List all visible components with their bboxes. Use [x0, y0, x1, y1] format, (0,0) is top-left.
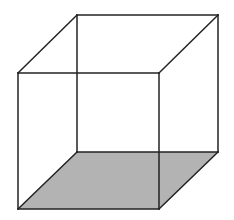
cube-diagram — [0, 0, 234, 220]
edge-connect-top-right — [159, 15, 218, 73]
edge-connect-top-left — [18, 15, 77, 73]
cube-svg — [0, 0, 234, 220]
